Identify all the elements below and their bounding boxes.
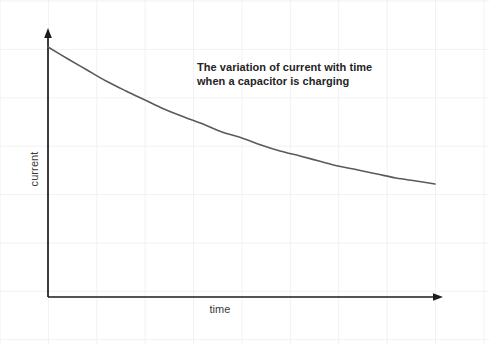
x-axis-arrowhead: [433, 293, 443, 301]
y-axis-arrowhead: [44, 28, 52, 38]
y-axis-label: current: [28, 152, 40, 187]
chart-title-line-1: The variation of current with time: [197, 61, 372, 75]
plot-area: [0, 0, 489, 344]
chart-canvas: The variation of current with time when …: [0, 0, 489, 344]
chart-title-line-2: when a capacitor is charging: [197, 75, 372, 89]
x-axis-label: time: [209, 303, 230, 315]
chart-title: The variation of current with time when …: [197, 61, 372, 88]
